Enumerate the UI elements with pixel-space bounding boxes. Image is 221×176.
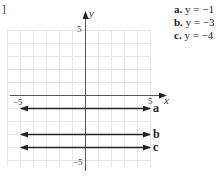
- y-axis-label: y: [88, 7, 94, 19]
- x-axis-label: x: [163, 94, 169, 106]
- line-b-label: b: [153, 127, 160, 141]
- legend: a. y = −1 b. y = −3 c. y = −4: [174, 3, 215, 42]
- legend-item-b: b. y = −3: [174, 16, 215, 29]
- grid: [8, 31, 151, 168]
- line-c-label: c: [153, 140, 159, 154]
- line-a-label: a: [153, 101, 159, 115]
- y-min-tick: −5: [73, 157, 83, 167]
- legend-item-c: c. y = −4: [174, 29, 215, 42]
- legend-item-a: a. y = −1: [174, 3, 215, 16]
- x-min-tick: −5: [13, 97, 23, 107]
- y-max-tick: 5: [77, 24, 82, 34]
